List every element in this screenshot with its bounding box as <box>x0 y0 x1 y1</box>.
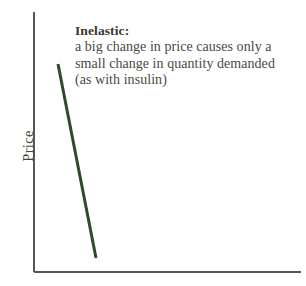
demand-curve-line <box>58 64 96 258</box>
annotation-line-2: small change in quantity demanded <box>75 56 300 73</box>
annotation-line-1: a big change in price causes only a <box>75 39 300 56</box>
annotation-block: Inelastic: a big change in price causes … <box>75 23 300 89</box>
figure-canvas: Price Inelastic: a big change in price c… <box>0 0 306 286</box>
annotation-line-3: (as with insulin) <box>75 72 300 89</box>
annotation-heading: Inelastic: <box>75 23 300 39</box>
